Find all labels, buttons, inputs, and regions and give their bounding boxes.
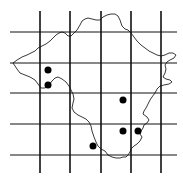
occurrence-dot-0	[45, 67, 52, 74]
distribution-map	[0, 0, 183, 180]
region-outline	[13, 14, 176, 158]
occurrence-dot-5	[90, 143, 97, 150]
occurrence-dot-4	[135, 128, 142, 135]
occurrence-dot-1	[45, 82, 52, 89]
occurrence-dot-2	[120, 97, 127, 104]
occurrence-points	[45, 67, 142, 150]
occurrence-dot-3	[120, 128, 127, 135]
